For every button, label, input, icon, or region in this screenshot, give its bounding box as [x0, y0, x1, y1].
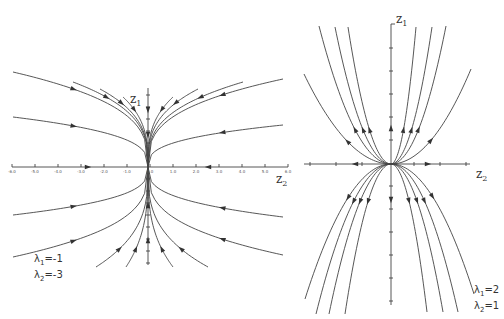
trajectory: [391, 27, 432, 164]
trajectory: [13, 167, 148, 257]
trajectory: [319, 26, 391, 164]
arrow-marker: [406, 197, 410, 204]
arrow-marker: [362, 127, 367, 134]
tick-label: 0.0: [147, 169, 153, 174]
trajectory: [148, 82, 243, 167]
trajectory: [391, 26, 446, 164]
arrow-marker: [401, 127, 405, 134]
right-phase-portrait: [304, 24, 474, 314]
trajectory: [391, 164, 474, 294]
trajectory: [96, 167, 148, 267]
left-z1-axis-label: z1: [130, 92, 141, 108]
lambda2-label: λ2=1: [474, 300, 499, 316]
arrow-marker: [219, 92, 226, 96]
arrow-marker: [389, 197, 393, 203]
arrow-marker: [70, 205, 77, 209]
trajectory: [126, 167, 148, 267]
tick-label: -3.0: [77, 169, 85, 174]
arrow-marker: [414, 197, 418, 204]
arrow-marker: [160, 106, 165, 113]
trajectory: [13, 167, 148, 215]
arrow-marker: [219, 130, 226, 134]
arrow-marker: [197, 94, 204, 99]
right-eigenvalue-legend: λ1=2 λ2=1: [474, 284, 499, 316]
trajectory: [345, 164, 391, 314]
tick-label: 2.0: [193, 169, 199, 174]
arrow-marker: [118, 99, 124, 105]
trajectory: [305, 164, 391, 299]
trajectory: [148, 97, 173, 167]
arrow-marker: [219, 238, 226, 242]
tick-label: -2.0: [100, 169, 108, 174]
tick-label: -6.0: [8, 169, 16, 174]
tick-label: 5.0: [262, 169, 268, 174]
arrow-marker: [173, 99, 179, 105]
arrow-marker: [359, 198, 364, 205]
arrow-marker: [160, 246, 165, 253]
arrow-marker: [408, 127, 412, 134]
arrow-marker: [368, 127, 372, 134]
arrow-marker: [352, 198, 357, 205]
lambda1-label: λ1=-1: [34, 253, 63, 269]
arrow-marker: [353, 127, 358, 134]
phase-portrait-figure: [0, 0, 504, 319]
tick-label: 3.0: [216, 169, 222, 174]
left-z2-axis-label: z2: [276, 172, 287, 188]
arrow-marker: [146, 107, 150, 113]
lambda2-label: λ2=-3: [34, 269, 63, 285]
trajectory: [148, 89, 198, 167]
trajectory: [148, 167, 283, 255]
trajectory: [148, 125, 283, 167]
arrow-marker: [352, 162, 358, 166]
trajectory: [391, 69, 471, 164]
trajectory: [13, 117, 148, 167]
arrow-marker: [421, 197, 426, 204]
left-eigenvalue-legend: λ1=-1 λ2=-3: [34, 253, 63, 285]
arrow-marker: [146, 237, 150, 243]
arrow-marker: [346, 194, 351, 201]
arrow-marker: [425, 162, 431, 166]
tick-label: 6.0: [285, 169, 291, 174]
arrow-marker: [70, 86, 77, 90]
arrow-marker: [103, 94, 110, 99]
arrow-marker: [429, 193, 434, 200]
arrow-marker: [415, 127, 420, 134]
arrow-marker: [367, 198, 371, 205]
trajectory: [148, 167, 208, 267]
tick-label: -5.0: [31, 169, 39, 174]
arrow-marker: [85, 165, 91, 169]
tick-label: -4.0: [54, 169, 62, 174]
lambda1-label: λ1=2: [474, 284, 499, 300]
arrow-marker: [133, 246, 138, 253]
right-z1-axis-label: z1: [396, 12, 407, 28]
trajectory: [148, 79, 283, 167]
right-z2-axis-label: z2: [476, 167, 487, 183]
arrow-marker: [389, 125, 393, 131]
tick-label: 4.0: [239, 169, 245, 174]
tick-label: -1.0: [123, 169, 131, 174]
arrow-marker: [219, 206, 226, 210]
trajectory: [391, 164, 427, 312]
arrow-marker: [70, 123, 77, 127]
tick-label: 1.0: [170, 169, 176, 174]
arrow-marker: [70, 240, 77, 244]
trajectory: [148, 167, 283, 217]
arrow-marker: [205, 165, 211, 169]
